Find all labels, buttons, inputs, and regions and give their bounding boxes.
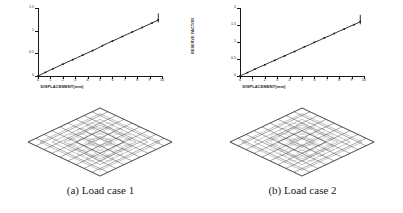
series-line: [38, 20, 158, 76]
x-tick-label: 0: [239, 79, 241, 83]
series-marker: [247, 72, 249, 74]
mesh-lines: [230, 108, 374, 176]
lattice-mesh-icon-a: [24, 104, 176, 180]
y-tick-label: 1: [234, 40, 236, 44]
x-tick-label: 7: [326, 79, 328, 83]
panel-load-case-2: 012345678910 00.511.52 DISPLACEMENT(mm) …: [202, 0, 403, 213]
series-marker: [45, 72, 47, 74]
x-tick-label: 3: [276, 79, 278, 83]
x-tick-label: 5: [99, 79, 101, 83]
series-marker: [102, 45, 104, 47]
x-tick-label: 4: [87, 79, 89, 83]
series-marker: [264, 64, 266, 66]
series-marker: [239, 75, 241, 77]
series-marker: [62, 63, 64, 65]
x-tick-label: 6: [111, 79, 113, 83]
x-tick-label: 8: [338, 79, 340, 83]
x-tick-label: 9: [351, 79, 353, 83]
series-marker: [333, 33, 335, 35]
series-marker: [314, 42, 316, 44]
y-tick-label: 0.5: [29, 52, 34, 56]
y-tick-label: 2: [234, 6, 236, 10]
series-marker: [304, 46, 306, 48]
x-tick-label: 1: [49, 79, 51, 83]
x-tick-label: 0: [37, 79, 39, 83]
x-tick-label: 9: [149, 79, 151, 83]
x-tick-label: 2: [62, 79, 64, 83]
x-tick-label: 4: [289, 79, 291, 83]
series-marker: [82, 54, 84, 56]
chart-load-case-2: 012345678910 00.511.52 DISPLACEMENT(mm) …: [202, 2, 403, 102]
series-marker: [294, 51, 296, 53]
caption-load-case-2: (b) Load case 2: [202, 184, 403, 196]
y-tick-label: 1.5: [231, 23, 236, 27]
series-marker: [112, 40, 114, 42]
series-marker: [353, 24, 355, 26]
x-tick-label: 10: [362, 79, 366, 83]
y-axis-title-b: RESERVE FACTOR: [191, 18, 195, 54]
x-tick-label: 10: [160, 79, 164, 83]
series-marker: [92, 50, 94, 52]
y-tick-label: 0: [234, 74, 236, 78]
x-tick-label: 1: [251, 79, 253, 83]
x-axis-title-a: DISPLACEMENT(mm): [41, 84, 84, 89]
x-tick-label: 3: [74, 79, 76, 83]
series-marker: [274, 60, 276, 62]
x-tick-label: 8: [136, 79, 138, 83]
lattice-mesh-icon-b: [226, 104, 378, 180]
plot-area-a: 012345678910 00.511.5: [38, 8, 162, 76]
plot-area-b: 012345678910 00.511.52: [240, 8, 364, 76]
panel-load-case-1: 012345678910 00.511.5 DISPLACEMENT(mm) R…: [0, 0, 201, 213]
y-tick-label: 0.5: [231, 57, 236, 61]
series-marker: [324, 37, 326, 39]
series-marker: [37, 75, 39, 77]
series-marker: [151, 22, 153, 24]
series-marker: [72, 59, 74, 61]
series-marker: [122, 36, 124, 38]
caption-load-case-1: (a) Load case 1: [0, 184, 201, 196]
x-tick-label: 5: [301, 79, 303, 83]
mesh-diagram-load-case-2: [202, 104, 403, 180]
figure-container: 012345678910 00.511.5 DISPLACEMENT(mm) R…: [0, 0, 403, 213]
series-marker: [141, 27, 143, 29]
x-tick-label: 7: [124, 79, 126, 83]
series-line: [240, 22, 360, 76]
mesh-diagram-load-case-1: [0, 104, 201, 180]
series-marker: [52, 68, 54, 70]
y-tick-label: 1.5: [29, 6, 34, 10]
y-tick-label: 1: [32, 29, 34, 33]
data-curve-b: [240, 8, 364, 76]
x-axis-title-b: DISPLACEMENT(mm): [243, 84, 286, 89]
series-marker: [343, 28, 345, 30]
y-tick-label: 0: [32, 74, 34, 78]
mesh-lines: [28, 108, 172, 176]
series-marker: [131, 31, 133, 33]
chart-load-case-1: 012345678910 00.511.5 DISPLACEMENT(mm) R…: [0, 2, 201, 102]
x-tick-label: 2: [264, 79, 266, 83]
x-tick-label: 6: [313, 79, 315, 83]
series-marker: [284, 55, 286, 57]
data-curve-a: [38, 8, 162, 76]
series-marker: [254, 68, 256, 70]
